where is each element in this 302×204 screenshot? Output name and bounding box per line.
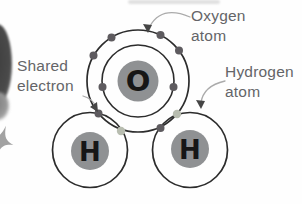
oxygen-electron-dot: [157, 124, 165, 132]
oxygen-electron-dot: [95, 110, 103, 118]
hydrogen-right-symbol: H: [179, 135, 201, 165]
oxygen-electron-dot: [157, 31, 165, 39]
water-molecule-diagram: O H H Oxygen atom Hydrogen atom Shared e…: [0, 0, 302, 204]
label-oxygen-atom: Oxygen atom: [191, 6, 255, 46]
oxygen-electron-dot: [175, 47, 183, 55]
oxygen-label-arrow: [150, 13, 190, 26]
label-shared-electron: Shared electron: [17, 56, 89, 96]
molecule-drawing: O H H: [0, 0, 302, 204]
sparkle-shape: [0, 122, 18, 160]
hydrogen-label-arrow: [201, 81, 225, 103]
oxygen-electron-dot: [108, 34, 116, 42]
hydrogen-left-symbol: H: [79, 137, 101, 167]
oxygen-electron-dot: [90, 52, 98, 60]
label-hydrogen-atom: Hydrogen atom: [225, 62, 302, 102]
oxygen-symbol: O: [126, 64, 151, 98]
shared-electron-dot: [173, 110, 181, 118]
oxygen-electron-dot: [99, 83, 107, 91]
hydrogen-label-arrowhead: [196, 100, 205, 109]
oxygen-electron-dot: [170, 83, 178, 91]
shared-electron-dot: [117, 127, 125, 135]
